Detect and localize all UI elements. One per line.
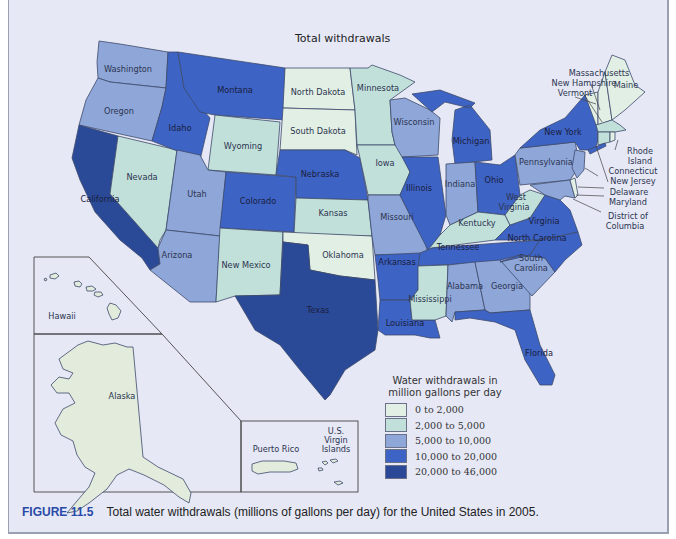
label-illinois: Illinois	[406, 183, 432, 193]
label-wyoming: Wyoming	[224, 141, 262, 151]
label-nebraska: Nebraska	[301, 169, 340, 179]
label-rhode-island-1: Rhode	[627, 146, 653, 156]
label-arkansas: Arkansas	[378, 257, 415, 267]
label-delaware: Delaware	[610, 187, 649, 197]
label-rhode-island-2: Island	[628, 156, 652, 166]
label-alaska: Alaska	[109, 391, 136, 401]
label-west-virginia-1: West	[506, 192, 527, 202]
legend-label: 20,000 to 46,000	[415, 466, 497, 477]
legend-label: 10,000 to 20,000	[415, 451, 497, 462]
label-massachusetts: Massachusetts	[569, 68, 630, 78]
label-maryland: Maryland	[609, 197, 647, 207]
usvi-shapes	[318, 459, 343, 485]
label-california: California	[81, 194, 120, 204]
label-new-mexico: New Mexico	[221, 260, 270, 270]
legend-swatch	[385, 434, 407, 448]
legend-label: 2,000 to 5,000	[415, 420, 485, 431]
legend-item: 10,000 to 20,000	[385, 449, 515, 465]
label-minnesota: Minnesota	[357, 83, 399, 93]
label-nevada: Nevada	[126, 172, 157, 182]
label-connecticut: Connecticut	[608, 166, 658, 176]
label-usvi-3: Islands	[322, 444, 351, 454]
label-montana: Montana	[217, 85, 253, 95]
label-georgia: Georgia	[491, 281, 523, 291]
label-puerto-rico: Puerto Rico	[253, 444, 300, 454]
label-wisconsin: Wisconsin	[394, 117, 435, 127]
label-kansas: Kansas	[319, 208, 348, 218]
label-north-dakota: North Dakota	[291, 87, 346, 97]
legend-item: 2,000 to 5,000	[385, 418, 515, 434]
label-texas: Texas	[306, 305, 330, 315]
label-pennsylvania: Pennsylvania	[519, 157, 573, 167]
label-idaho: Idaho	[169, 123, 192, 133]
caption-text: Total water withdrawals (millions of gal…	[107, 505, 539, 519]
label-kentucky: Kentucky	[458, 218, 496, 228]
label-florida: Florida	[525, 348, 553, 358]
label-south-carolina-1: South	[519, 253, 543, 263]
label-new-york: New York	[544, 127, 582, 137]
legend-title-line2: million gallons per day	[375, 387, 515, 399]
legend-swatch	[385, 465, 407, 479]
label-vermont: Vermont	[558, 88, 593, 98]
label-missouri: Missouri	[380, 212, 414, 222]
legend: Water withdrawals in million gallons per…	[385, 375, 515, 480]
state-new-york[interactable]	[520, 95, 598, 150]
label-arizona: Arizona	[162, 250, 193, 260]
legend-title-line1: Water withdrawals in	[375, 375, 515, 387]
puerto-rico-shape	[252, 461, 298, 474]
label-west-virginia-2: Virginia	[499, 202, 530, 212]
state-rhode-island[interactable]	[610, 132, 615, 142]
label-washington: Washington	[104, 64, 152, 74]
label-colorado: Colorado	[240, 196, 277, 206]
label-hawaii: Hawaii	[48, 311, 75, 321]
label-oklahoma: Oklahoma	[322, 250, 364, 260]
label-dc-1: District of	[608, 211, 649, 221]
legend-swatch	[385, 449, 407, 463]
label-ohio: Ohio	[485, 175, 504, 185]
label-oregon: Oregon	[104, 106, 134, 116]
label-south-dakota: South Dakota	[290, 126, 345, 136]
label-north-carolina: North Carolina	[507, 233, 566, 243]
legend-label: 5,000 to 10,000	[415, 435, 491, 446]
label-louisiana: Louisiana	[386, 318, 425, 328]
label-maine: Maine	[614, 80, 639, 90]
us-choropleth-map: Washington Oregon California Nevada Idah…	[0, 0, 676, 539]
label-dc-2: Columbia	[606, 221, 645, 231]
state-arizona[interactable]	[150, 230, 220, 302]
label-new-hampshire: New Hampshire	[552, 78, 617, 88]
label-iowa: Iowa	[375, 158, 394, 168]
label-new-jersey: New Jersey	[610, 176, 656, 186]
legend-swatch	[385, 418, 407, 432]
legend-swatch	[385, 403, 407, 417]
label-tennessee: Tennessee	[436, 242, 480, 252]
label-mississippi: Mississippi	[408, 294, 452, 304]
alaska-shape	[51, 341, 191, 513]
label-michigan: Michigan	[453, 136, 490, 146]
figure-caption: FIGURE 11.5 Total water withdrawals (mil…	[22, 505, 539, 519]
legend-label: 0 to 2,000	[415, 404, 464, 415]
figure-number: FIGURE 11.5	[22, 505, 93, 519]
label-virginia: Virginia	[529, 216, 560, 226]
legend-item: 20,000 to 46,000	[385, 464, 515, 480]
label-utah: Utah	[187, 189, 206, 199]
legend-item: 5,000 to 10,000	[385, 433, 515, 449]
legend-item: 0 to 2,000	[385, 402, 515, 418]
label-south-carolina-2: Carolina	[514, 263, 548, 273]
label-alabama: Alabama	[447, 281, 483, 291]
label-indiana: Indiana	[445, 179, 475, 189]
